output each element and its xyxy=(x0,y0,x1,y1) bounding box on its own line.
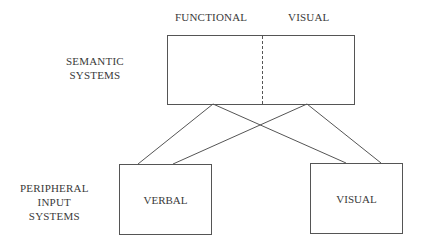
verbal-label: VERBAL xyxy=(120,194,211,206)
visual-input-box: VISUAL xyxy=(310,163,403,234)
line-functional-to-verbal xyxy=(138,104,213,164)
line-visual-to-visual xyxy=(307,104,381,163)
line-functional-to-visual xyxy=(213,104,346,163)
visual-label: VISUAL xyxy=(311,193,402,205)
line-visual-to-verbal xyxy=(173,104,307,164)
verbal-input-box: VERBAL xyxy=(119,164,212,235)
